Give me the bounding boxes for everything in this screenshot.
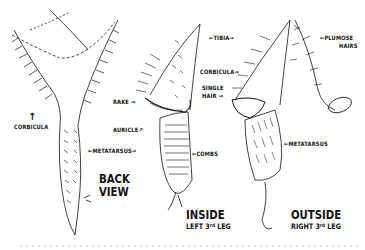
title-inside: INSIDE [186,208,225,221]
arrow-right-icon: → [234,68,238,75]
subtitle-outside: RIGHT 3rd LEG [291,223,341,231]
label-metatarsus-outside: ←METATARSUS [284,141,328,147]
outside-view-leg [232,20,354,229]
subtitle-inside: LEFT 3rd LEG [186,223,231,231]
label-plumose-1: ←PLUMOSE [320,35,353,41]
label-rake: RAKE → [113,99,135,105]
title-back-2: VIEW [99,185,129,198]
label-corbicula-outside: CORBICULA→ [200,69,239,75]
label-metatarsus-inside: ←METATARSUS→ [88,148,136,154]
inside-view-leg [136,24,200,210]
label-combs: ←COMBS [192,151,218,157]
title-outside: OUTSIDE [291,208,341,221]
label-plumose-2: HAIRS [339,43,358,49]
label-tibia: ←TIBIA→ [209,35,234,41]
label-single-hair-1: SINGLE [202,85,224,91]
arrow-right-icon: → [131,98,135,105]
arrow-right-icon: → [229,34,233,41]
arrow-up-icon: ↑ [28,112,36,122]
label-auricle: AURICLE↗ [113,127,143,133]
arrow-right-icon: → [219,92,223,99]
label-corbicula-back: CORBICULA [14,124,48,130]
arrow-upright-icon: ↗ [138,126,142,133]
arrow-right-icon: → [132,147,136,154]
label-single-hair-2: HAIR → [202,93,223,99]
